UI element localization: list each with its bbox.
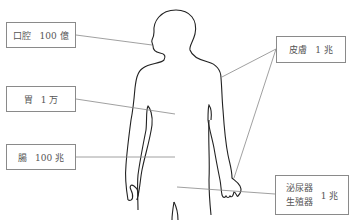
- bacteria-count: 1 兆: [315, 43, 333, 56]
- label-stomach: 胃 1 万: [6, 86, 76, 112]
- leader-line-stomach: [76, 99, 175, 114]
- label-urogenital: 泌尿器 生殖器 1 兆: [275, 175, 349, 215]
- leader-line-skin-hand: [234, 49, 276, 178]
- label-intestine: 腸 100 兆: [6, 144, 76, 170]
- leader-line-mouth: [76, 35, 152, 45]
- leader-lines: [76, 35, 276, 194]
- leader-line-urogenital: [177, 187, 275, 194]
- bacteria-count: 100 兆: [35, 151, 64, 164]
- label-skin: 皮膚 1 兆: [276, 36, 346, 63]
- organ-name: 皮膚: [289, 43, 307, 56]
- label-mouth: 口腔 100 億: [6, 22, 76, 48]
- organ-name: 胃: [24, 93, 33, 106]
- bacteria-count: 100 億: [39, 29, 68, 42]
- bacteria-count: 1 万: [41, 93, 59, 106]
- organ-name-stack: 泌尿器 生殖器: [286, 181, 313, 209]
- human-body-outline: [126, 10, 241, 220]
- organ-name-genital: 生殖器: [286, 195, 313, 209]
- organ-name-urinary: 泌尿器: [286, 181, 313, 195]
- organ-name: 口腔: [13, 29, 31, 42]
- bacteria-count: 1 兆: [321, 189, 339, 202]
- organ-name: 腸: [18, 151, 27, 164]
